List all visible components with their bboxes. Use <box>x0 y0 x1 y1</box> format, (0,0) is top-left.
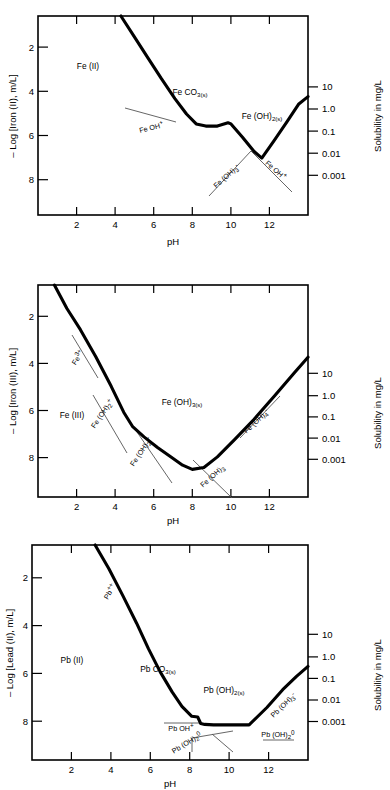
right-tick-label: 1.0 <box>322 651 335 662</box>
x-tick-label: 2 <box>74 219 79 230</box>
region-labels-3: Pb (II) Pb CO3(s) Pb (OH)2(s) <box>61 655 245 696</box>
species-label-pboh2-zero: Pb (OH)20 <box>170 729 204 756</box>
right-axis-ticks-1 <box>308 87 318 175</box>
figure-page: 2 4 6 8 10 12 pH 2 4 6 8 – Log [Iron (II… <box>0 0 390 790</box>
region-label-pbco3: Pb CO3(s) <box>140 664 176 675</box>
region-label-pb-ii: Pb (II) <box>61 655 84 665</box>
y-ticks-2 <box>38 316 48 457</box>
chart-svg-iron-iii: 2 4 6 8 10 12 pH 2 4 6 8 – Log [Iron (II… <box>0 263 390 526</box>
x-axis-label: pH <box>167 236 179 247</box>
right-tick-label: 0.1 <box>322 673 335 684</box>
x-tick-label: 12 <box>264 219 275 230</box>
x-tick-label: 4 <box>112 501 117 512</box>
solubility-curve-iron-ii <box>121 16 308 158</box>
right-axis-tick-labels-2: 10 1.0 0.1 0.01 0.001 <box>322 368 346 465</box>
species-label-feoh-plus-2: Fe OH+ <box>263 157 289 182</box>
right-tick-label: 0.01 <box>322 433 341 444</box>
y-tick-label: 8 <box>29 452 34 463</box>
species-label-feoh3-minus: Fe (OH)3- <box>211 162 242 191</box>
plot-frame-2 <box>38 285 308 497</box>
right-tick-label: 10 <box>322 629 333 640</box>
x-tick-label: 4 <box>112 219 117 230</box>
y-axis-label: – Log [Iron (III), m/L] <box>7 348 18 434</box>
x-tick-labels-3: 2 4 6 8 10 12 <box>69 764 274 775</box>
x-tick-label: 6 <box>151 501 156 512</box>
species-label-pboh3-minus: Pb (OH)3- <box>268 690 299 720</box>
solubility-curve-lead-ii <box>95 545 308 725</box>
x-tick-label: 10 <box>226 501 237 512</box>
species-label-pboh-plus: Pb OH+ <box>168 722 194 733</box>
x-tick-label: 12 <box>264 501 275 512</box>
y-ticks-3 <box>32 578 42 721</box>
y-tick-label: 8 <box>23 716 28 727</box>
right-tick-label: 0.001 <box>322 454 346 465</box>
y-tick-label: 4 <box>23 620 28 631</box>
x-tick-label: 2 <box>74 501 79 512</box>
x-tick-labels-2: 2 4 6 8 10 12 <box>74 501 275 512</box>
y-tick-labels-1: 2 4 6 8 <box>29 42 34 186</box>
y-tick-label: 2 <box>29 311 34 322</box>
x-ticks-2 <box>77 285 270 497</box>
right-tick-label: 0.001 <box>322 716 346 727</box>
x-tick-label: 10 <box>224 764 235 775</box>
right-tick-label: 0.01 <box>322 694 341 705</box>
right-axis-tick-labels-3: 10 1.0 0.1 0.01 0.001 <box>322 629 346 727</box>
y-tick-labels-2: 2 4 6 8 <box>29 311 34 463</box>
y-tick-label: 6 <box>29 130 34 141</box>
species-label-feoh2-plus: Fe (OH)2+ <box>88 397 116 431</box>
right-tick-label: 0.1 <box>322 411 335 422</box>
species-labels-1: Fe OH+ Fe (OH)3- Fe OH+ <box>138 118 290 191</box>
species-labels-2: Fe3+ Fe (OH)2+ Fe (OH)2+ Fe (OH)3 Fe (OH… <box>68 347 271 490</box>
right-tick-label: 1.0 <box>322 103 335 114</box>
species-label-fe3-plus: Fe3+ <box>68 347 86 366</box>
right-axis-tick-labels-1: 10 1.0 0.1 0.01 0.001 <box>322 81 346 180</box>
right-tick-label: 0.1 <box>322 126 335 137</box>
x-tick-label: 12 <box>263 764 274 775</box>
right-tick-label: 0.001 <box>322 170 346 181</box>
y-axis-label: – Log [Iron (II), m/L] <box>7 74 18 157</box>
x-tick-label: 8 <box>190 501 195 512</box>
region-labels-1: Fe (II) Fe CO3(s) Fe (OH)2(s) <box>77 61 283 122</box>
y-tick-label: 4 <box>29 358 34 369</box>
right-tick-label: 1.0 <box>322 390 335 401</box>
right-tick-label: 10 <box>322 81 333 92</box>
right-axis-ticks-3 <box>308 634 318 721</box>
x-tick-label: 4 <box>108 764 113 775</box>
right-axis-ticks-2 <box>308 373 318 459</box>
x-tick-label: 8 <box>187 764 192 775</box>
chart-svg-iron-ii: 2 4 6 8 10 12 pH 2 4 6 8 – Log [Iron (II… <box>0 0 390 263</box>
region-labels-2: Fe (III) Fe (OH)3(s) <box>60 397 203 420</box>
x-axis-label: pH <box>164 778 176 789</box>
right-tick-label: 10 <box>322 368 333 379</box>
chart-svg-lead-ii: 2 4 6 8 10 12 pH 2 4 6 8 – Log [Lead (II… <box>0 527 390 790</box>
chart-panel-lead-ii: 2 4 6 8 10 12 pH 2 4 6 8 – Log [Lead (II… <box>0 527 390 790</box>
x-tick-label: 2 <box>69 764 74 775</box>
species-label-feoh-plus: Fe OH+ <box>138 118 165 135</box>
region-label-feoh3s: Fe (OH)3(s) <box>162 397 203 408</box>
y-tick-label: 2 <box>29 42 34 53</box>
x-tick-labels-1: 2 4 6 8 10 12 <box>74 219 275 230</box>
x-tick-label: 8 <box>190 219 195 230</box>
region-label-fe-iii: Fe (III) <box>60 410 85 420</box>
x-tick-label: 10 <box>226 219 237 230</box>
right-tick-label: 0.01 <box>322 148 341 159</box>
region-label-feoh2s: Fe (OH)2(s) <box>242 111 283 122</box>
region-label-fe-ii: Fe (II) <box>77 61 100 71</box>
y-tick-label: 6 <box>29 405 34 416</box>
x-ticks-1 <box>77 16 270 215</box>
right-axis-label: Solubility in mg/L <box>372 639 383 711</box>
solubility-curve-iron-iii <box>54 285 308 469</box>
right-axis-label: Solubility in mg/L <box>372 377 383 449</box>
y-tick-label: 4 <box>29 86 34 97</box>
x-axis-label: pH <box>167 515 179 526</box>
region-label-feco3: Fe CO3(s) <box>172 87 207 98</box>
y-tick-label: 2 <box>23 572 28 583</box>
chart-panel-iron-ii: 2 4 6 8 10 12 pH 2 4 6 8 – Log [Iron (II… <box>0 0 390 263</box>
species-label-pboh2-zero-2: Pb (OH)20 <box>261 729 295 740</box>
y-tick-labels-3: 2 4 6 8 <box>23 572 28 726</box>
x-tick-label: 6 <box>148 764 153 775</box>
y-tick-label: 8 <box>29 174 34 185</box>
right-axis-label: Solubility in mg/L <box>372 80 383 152</box>
chart-panel-iron-iii: 2 4 6 8 10 12 pH 2 4 6 8 – Log [Iron (II… <box>0 263 390 526</box>
y-tick-label: 6 <box>23 668 28 679</box>
